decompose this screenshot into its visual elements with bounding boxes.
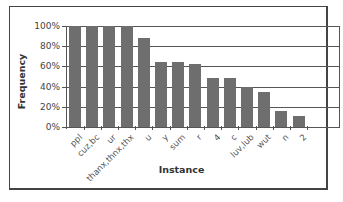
y-tick	[62, 66, 66, 67]
bar-wut	[258, 92, 270, 127]
y-tick-label: 100%	[20, 21, 60, 31]
bar-4	[207, 78, 219, 127]
bar-luv-lub	[241, 87, 253, 127]
bar-ur	[103, 26, 115, 127]
y-tick-label: 0%	[20, 122, 60, 132]
bar-sum	[172, 62, 184, 127]
bar-u	[138, 38, 150, 127]
x-tick	[187, 126, 188, 130]
y-tick	[62, 87, 66, 88]
x-tick	[101, 126, 102, 130]
x-axis-title: Instance	[0, 164, 343, 175]
x-tick	[152, 126, 153, 130]
y-tick	[62, 127, 66, 128]
x-tick	[84, 126, 85, 130]
y-tick-label: 60%	[20, 61, 60, 71]
x-tick	[238, 126, 239, 130]
y-tick-label: 40%	[20, 82, 60, 92]
x-tick	[221, 126, 222, 130]
y-tick	[62, 107, 66, 108]
bar-cuz-bc	[86, 26, 98, 127]
x-tick	[290, 126, 291, 130]
bar-r	[189, 64, 201, 127]
x-tick	[118, 126, 119, 130]
y-tick-label: 20%	[20, 102, 60, 112]
x-tick	[204, 126, 205, 130]
bar-n	[275, 111, 287, 127]
x-tick	[256, 126, 257, 130]
x-tick	[135, 126, 136, 130]
bar-c	[224, 78, 236, 127]
y-tick	[62, 26, 66, 27]
y-tick-label: 80%	[20, 41, 60, 51]
bar-2	[293, 116, 305, 127]
plot-area: 0%20%40%60%80%100%pplcuz,bcurthanx,thnx,…	[66, 26, 340, 127]
x-tick	[170, 126, 171, 130]
x-tick	[307, 126, 308, 130]
bar-ppl	[69, 26, 81, 127]
x-tick	[273, 126, 274, 130]
y-tick	[62, 46, 66, 47]
bar-y	[155, 62, 167, 127]
bar-thanx-thnx-thx	[121, 26, 133, 127]
y-axis-line	[66, 26, 67, 129]
